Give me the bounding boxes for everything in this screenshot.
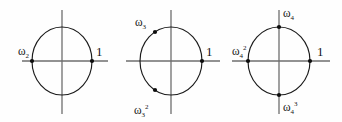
label-superscript: 2 bbox=[145, 103, 149, 111]
label-subscript: 4 bbox=[291, 14, 295, 22]
root-one-dot bbox=[90, 59, 94, 63]
root-omega-4-cubed-dot bbox=[277, 93, 281, 97]
root-omega-4-label: ω4 bbox=[283, 7, 295, 22]
label-subscript: 4 bbox=[240, 52, 244, 60]
root-one-label: 1 bbox=[206, 44, 213, 59]
root-one-label: 1 bbox=[317, 44, 324, 59]
label-base: 1 bbox=[317, 44, 324, 59]
root-one-label: 1 bbox=[96, 44, 103, 59]
roots-of-unity-figure: ω21ω3ω321ω4ω42ω431 bbox=[0, 0, 342, 122]
second-roots-of-unity: ω21 bbox=[18, 10, 108, 114]
root-one-dot bbox=[200, 59, 204, 63]
root-omega-4-squared-label: ω42 bbox=[232, 44, 247, 60]
label-subscript: 3 bbox=[143, 23, 147, 31]
label-base: 1 bbox=[206, 44, 213, 59]
root-omega-2-label: ω2 bbox=[18, 45, 30, 60]
root-omega-4-dot bbox=[277, 25, 281, 29]
root-omega-4-cubed-label: ω43 bbox=[283, 100, 298, 116]
label-subscript: 2 bbox=[26, 52, 30, 60]
third-roots-of-unity: ω3ω321 bbox=[126, 10, 220, 119]
label-subscript: 3 bbox=[142, 111, 146, 119]
label-base: 1 bbox=[96, 44, 103, 59]
figure-canvas: ω21ω3ω321ω4ω42ω431 bbox=[0, 0, 342, 122]
root-omega-2-dot bbox=[30, 59, 34, 63]
fourth-roots-of-unity: ω4ω42ω431 bbox=[232, 7, 330, 116]
label-superscript: 2 bbox=[243, 44, 247, 52]
label-superscript: 3 bbox=[294, 100, 298, 108]
root-one-dot bbox=[308, 59, 312, 63]
root-omega-4-squared-dot bbox=[246, 59, 250, 63]
root-omega-3-squared-label: ω32 bbox=[134, 103, 149, 119]
root-omega-3-label: ω3 bbox=[135, 16, 147, 31]
root-omega-3-dot bbox=[153, 30, 157, 34]
label-subscript: 4 bbox=[291, 108, 295, 116]
root-omega-3-squared-dot bbox=[153, 88, 157, 92]
